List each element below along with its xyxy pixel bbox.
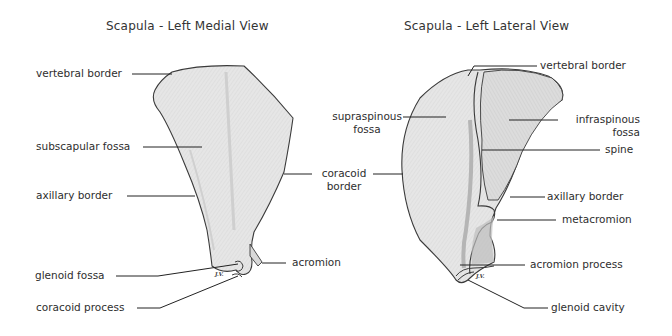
label-acromion-process: acromion process [530, 258, 623, 271]
label-medial-axillary-border: axillary border [36, 189, 112, 202]
medial-view-title: Scapula - Left Medial View [106, 19, 269, 33]
label-supraspinous-fossa-line2: fossa [318, 123, 402, 136]
artist-initials-lateral: J.V. [475, 273, 485, 280]
label-supraspinous-fossa: supraspinous fossa [318, 110, 402, 136]
label-supraspinous-fossa-line1: supraspinous [318, 110, 402, 123]
label-subscapular-fossa: subscapular fossa [36, 140, 130, 153]
label-lateral-vertebral-border: vertebral border [540, 59, 626, 72]
lateral-scapula-drawing: J.V. [402, 69, 563, 283]
label-coracoid-border: coracoid border [316, 167, 372, 193]
label-metacromion: metacromion [562, 213, 632, 226]
label-lateral-axillary-border: axillary border [547, 190, 623, 203]
label-acromion: acromion [292, 256, 341, 269]
artist-initials-medial: J.V. [214, 271, 224, 278]
label-spine: spine [605, 143, 633, 156]
label-glenoid-cavity: glenoid cavity [551, 301, 625, 314]
label-infraspinous-fossa-line2: fossa [560, 126, 640, 139]
label-coracoid-border-line2: border [316, 180, 372, 193]
label-coracoid-process: coracoid process [36, 301, 124, 314]
label-infraspinous-fossa: infraspinous fossa [560, 113, 640, 139]
label-glenoid-fossa: glenoid fossa [35, 269, 105, 282]
medial-scapula-drawing: J.V. [153, 66, 293, 278]
lateral-view-title: Scapula - Left Lateral View [404, 19, 569, 33]
label-medial-vertebral-border: vertebral border [36, 67, 122, 80]
label-coracoid-border-line1: coracoid [316, 167, 372, 180]
label-infraspinous-fossa-line1: infraspinous [560, 113, 640, 126]
